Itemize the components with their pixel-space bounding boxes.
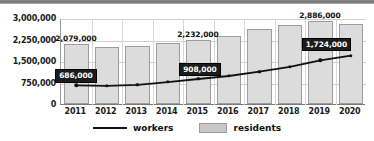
legend-item-workers: workers	[93, 123, 174, 133]
x-tick-label: 2020	[335, 107, 365, 116]
y-tick-label: 750,000	[0, 79, 56, 88]
chart-screenshot: 0750,0001,500,0002,250,0003,000,000 2,07…	[0, 0, 374, 141]
chart-legend: workers residents	[0, 120, 374, 136]
y-tick-label: 1,500,000	[0, 57, 56, 66]
legend-label-workers: workers	[133, 123, 174, 133]
x-tick-label: 2014	[152, 107, 182, 116]
x-tick-label: 2015	[182, 107, 212, 116]
y-tick-label: 2,250,000	[0, 36, 56, 45]
legend-label-residents: residents	[233, 123, 281, 133]
line-data-callout: 1,724,000	[302, 38, 351, 52]
top-band-decoration	[0, 0, 374, 4]
x-tick-label: 2016	[213, 107, 243, 116]
x-tick-label: 2018	[274, 107, 304, 116]
line-swatch-icon	[93, 127, 127, 130]
bar-data-label: 2,886,000	[299, 11, 339, 20]
y-tick-label: 3,000,000	[0, 14, 56, 23]
x-tick-label: 2012	[91, 107, 121, 116]
y-tick-label: 0	[0, 100, 56, 109]
x-tick-label: 2011	[60, 107, 90, 116]
bar-data-label: 2,079,000	[55, 34, 95, 43]
x-tick-label: 2019	[304, 107, 334, 116]
bar-swatch-icon	[199, 123, 227, 133]
legend-item-residents: residents	[199, 123, 281, 133]
x-axis-labels: 2011201220132014201520162017201820192020	[60, 107, 365, 119]
line-data-callout: 686,000	[55, 69, 96, 83]
x-tick-label: 2013	[121, 107, 151, 116]
x-tick-label: 2017	[243, 107, 273, 116]
bar-data-label: 2,232,000	[177, 30, 217, 39]
line-data-callout: 908,000	[179, 63, 220, 77]
